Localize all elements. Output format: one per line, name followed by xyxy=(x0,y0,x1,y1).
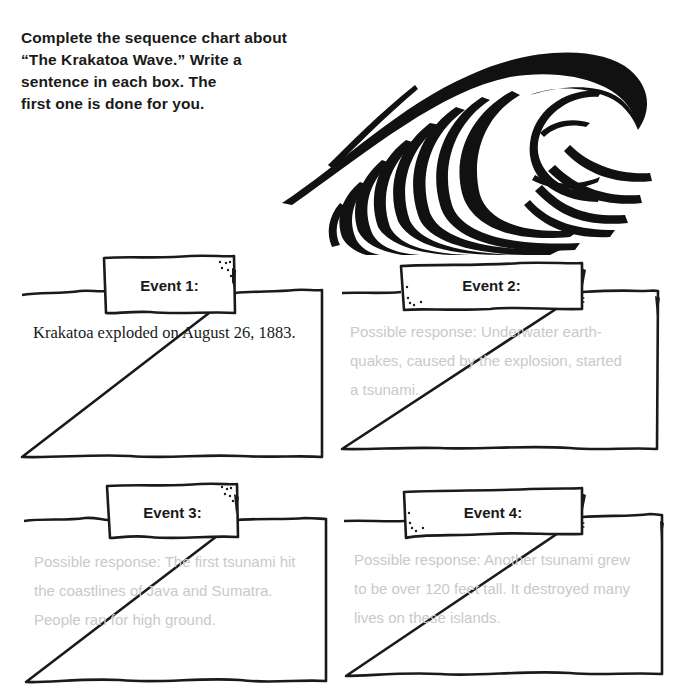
event-1-label: Event 1: xyxy=(104,277,235,294)
event-text-line: People ran for high ground. xyxy=(34,605,324,634)
event-2-label: Event 2: xyxy=(401,277,582,294)
instruction-line: first one is done for you. xyxy=(21,93,311,115)
event-text-line: Possible response: Another tsunami grew xyxy=(354,545,659,574)
event-1-text: Krakatoa exploded on August 26, 1883. xyxy=(33,318,318,347)
event-3-label: Event 3: xyxy=(107,504,238,521)
event-text-line: lives on these islands. xyxy=(354,603,659,632)
event-text-line: Possible response: The first tsunami hit xyxy=(34,547,324,576)
instructions-text: Complete the sequence chart about “The K… xyxy=(21,27,311,115)
ocean-wave-icon xyxy=(280,25,670,255)
event-text-line: a tsunami. xyxy=(350,375,650,404)
event-text-line: Possible response: Underwater earth- xyxy=(350,317,650,346)
instruction-line: sentence in each box. The xyxy=(21,71,311,93)
instruction-line: “The Krakatoa Wave.” Write a xyxy=(21,49,311,71)
event-3-text: Possible response: The first tsunami hit… xyxy=(34,547,324,634)
event-text-line: Krakatoa exploded on August 26, 1883. xyxy=(33,318,318,347)
instruction-line: Complete the sequence chart about xyxy=(21,27,311,49)
event-text-line: the coastlines of Java and Sumatra. xyxy=(34,576,324,605)
event-4-text: Possible response: Another tsunami grew … xyxy=(354,545,659,632)
event-2-text: Possible response: Underwater earth- qua… xyxy=(350,317,650,404)
event-4-label: Event 4: xyxy=(404,504,582,521)
event-text-line: to be over 120 feet tall. It destroyed m… xyxy=(354,574,659,603)
event-text-line: quakes, caused by the explosion, started xyxy=(350,346,650,375)
